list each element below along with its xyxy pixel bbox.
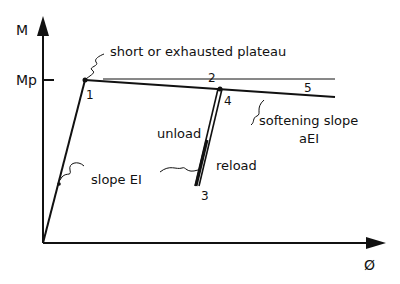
softening-annotation-aei: aEI <box>299 131 319 146</box>
point-1-label: 1 <box>86 88 94 102</box>
x-axis-arrow-icon <box>366 237 386 249</box>
reload-annotation: reload <box>216 158 257 173</box>
point-4-label: 4 <box>224 94 232 108</box>
point-4-marker <box>218 87 223 92</box>
point-5-label: 5 <box>304 81 312 95</box>
moment-curvature-diagram: M Mp Ø short or exhausted plateau slope … <box>0 0 400 284</box>
y-axis-arrow-icon <box>37 16 49 36</box>
elastic-line <box>43 80 85 243</box>
mp-label: Mp <box>16 72 37 88</box>
softening-annotation: softening slope <box>259 113 358 128</box>
slope-ei-annotation: slope EI <box>91 172 142 187</box>
plateau-leader <box>86 54 104 79</box>
plateau-annotation: short or exhausted plateau <box>110 44 286 59</box>
point-3-label: 3 <box>201 189 209 203</box>
unload-annotation: unload <box>157 126 201 141</box>
slope-marker <box>57 182 61 186</box>
point-2-label: 2 <box>208 71 216 85</box>
unload-reload-thick <box>196 140 207 186</box>
x-axis-label: Ø <box>364 257 375 273</box>
y-axis-label: M <box>16 22 28 38</box>
reload-leader <box>160 168 198 172</box>
point-1-marker <box>83 78 88 83</box>
